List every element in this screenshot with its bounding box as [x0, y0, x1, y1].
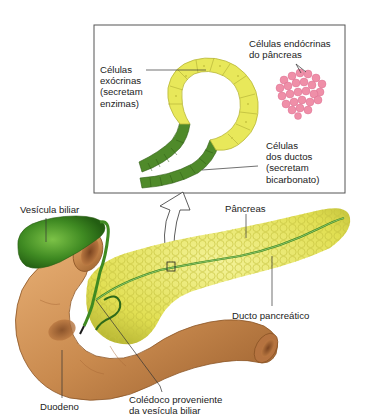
common-bile-duct-label: Colédoco proveniente da vesícula biliar [129, 394, 222, 416]
diagram-stage: Células exócrinas (secretam enzimas) Cél… [0, 0, 367, 417]
pancreas-label: Pâncreas [225, 203, 266, 214]
duct-cells-label: Células dos ductos (secretam bicarbonato… [266, 140, 319, 185]
duodenum-label: Duodeno [40, 401, 79, 412]
pancreatic-duct-label: Ducto pancreático [232, 310, 309, 321]
exocrine-cells-label: Células exócrinas (secretam enzimas) [100, 64, 143, 109]
gallbladder-label: Vesícula biliar [20, 204, 79, 215]
endocrine-cells-label: Células endócrinas do pâncreas [249, 38, 331, 60]
